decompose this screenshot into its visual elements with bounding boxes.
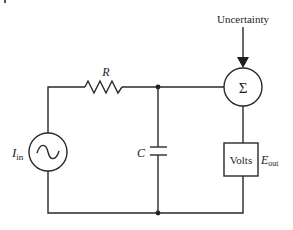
circuit-diagram: Iin R C Uncertainty Σ Volts Eout	[0, 0, 293, 230]
sigma-label: Σ	[239, 80, 248, 96]
resistor-icon	[85, 81, 122, 93]
down-arrow-icon	[237, 27, 249, 68]
voltmeter-label: Volts	[230, 154, 252, 166]
output-label: Eout	[260, 153, 279, 168]
uncertainty-label: Uncertainty	[217, 13, 269, 25]
right-wire-lower	[158, 176, 243, 213]
source-label: Iin	[11, 145, 24, 162]
ac-source-icon	[29, 133, 67, 171]
corner-mark	[4, 0, 6, 3]
capacitor-icon	[150, 87, 167, 213]
capacitor-label: C	[137, 146, 146, 160]
resistor-label: R	[101, 65, 110, 79]
